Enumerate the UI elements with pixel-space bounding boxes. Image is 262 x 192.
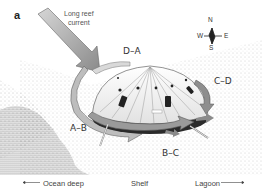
segment-label-cd: C–D [214, 76, 232, 86]
diagram-graphic [0, 0, 262, 192]
axis-label-ocean-deep: Ocean deep [43, 179, 84, 188]
segment-label-ab: A–B [70, 123, 87, 133]
panel-letter: a [14, 9, 20, 21]
compass-s: S [209, 44, 213, 51]
segment-label-da: D–A [123, 46, 141, 56]
axis-label-lagoon: Lagoon [195, 179, 220, 188]
reef-diagram: a Long reef current D–A C–D A–B B–C N W … [0, 0, 262, 192]
compass-n: N [208, 16, 213, 23]
compass-e: E [224, 32, 228, 39]
axis-label-shelf: Shelf [131, 179, 148, 188]
long-reef-current-label: Long reef current [64, 9, 94, 27]
compass-w: W [197, 32, 203, 39]
compass-icon [204, 28, 222, 44]
segment-label-bc: B–C [162, 148, 179, 158]
